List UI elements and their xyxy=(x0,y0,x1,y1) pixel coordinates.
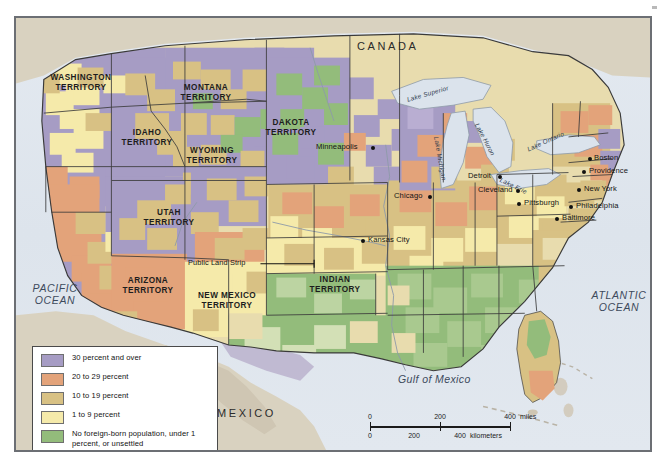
city-dot-pittsburgh xyxy=(517,202,521,206)
legend-item: No foreign-born population, under 1 perc… xyxy=(41,429,210,448)
scale-bar: 0 200 400 miles 0 200 400 kilometers xyxy=(368,413,548,452)
florida xyxy=(517,311,561,415)
legend-label-10-to-19: 10 to 19 percent xyxy=(72,391,128,401)
city-dot-baltimore xyxy=(555,217,559,221)
city-dot-cleveland xyxy=(516,189,520,193)
city-dot-boston xyxy=(588,157,592,161)
city-dot-detroit xyxy=(498,175,502,179)
scale-tick-start xyxy=(370,422,371,431)
legend-item: 10 to 19 percent xyxy=(41,391,210,405)
scale-tick-end xyxy=(510,422,511,431)
scale-km-tick-200: 200 xyxy=(408,432,420,439)
scale-miles-tick-200: 200 xyxy=(434,413,446,420)
legend-swatch-no-foreign-born xyxy=(41,430,64,443)
legend-item: 1 to 9 percent xyxy=(41,410,210,424)
legend-label-no-foreign-born: No foreign-born population, under 1 perc… xyxy=(72,429,210,448)
city-dot-chicago xyxy=(428,195,432,199)
legend-label-30-and-over: 30 percent and over xyxy=(72,353,141,363)
map-legend: 30 percent and over 20 to 29 percent 10 … xyxy=(32,346,218,452)
scale-miles-unit: miles xyxy=(520,413,536,420)
legend-item: 20 to 29 percent xyxy=(41,372,210,386)
legend-label-20-to-29: 20 to 29 percent xyxy=(72,372,128,382)
legend-swatch-10-to-19 xyxy=(41,392,64,405)
city-dot-kansas-city xyxy=(361,239,365,243)
legend-swatch-30-and-over xyxy=(41,354,64,367)
legend-swatch-20-to-29 xyxy=(41,373,64,386)
scale-km-unit: kilometers xyxy=(470,432,502,439)
scale-miles-tick-400: 400 xyxy=(504,413,516,420)
legend-label-1-to-9: 1 to 9 percent xyxy=(72,410,120,420)
legend-item: 30 percent and over xyxy=(41,353,210,367)
city-dot-minneapolis xyxy=(371,146,375,150)
page-root: CANADA MEXICO PACIFIC OCEAN ATLANTIC OCE… xyxy=(0,0,666,468)
legend-swatch-1-to-9 xyxy=(41,411,64,424)
city-dot-philadelphia xyxy=(569,205,573,209)
scale-km-tick-400: 400 xyxy=(454,432,466,439)
city-dot-providence xyxy=(582,170,586,174)
scale-miles-tick-0: 0 xyxy=(368,413,372,420)
scale-km-tick-0: 0 xyxy=(368,432,372,439)
corner-mark xyxy=(652,6,657,9)
map-frame: CANADA MEXICO PACIFIC OCEAN ATLANTIC OCE… xyxy=(14,16,652,452)
scale-tick-mid xyxy=(440,422,441,431)
city-dot-new-york xyxy=(577,188,581,192)
